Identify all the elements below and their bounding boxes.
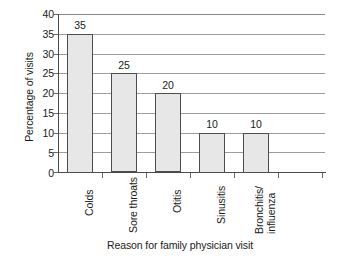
bar-sinusitis[interactable] xyxy=(199,133,225,173)
x-tick-mark xyxy=(102,173,103,178)
y-tick-label: 15 xyxy=(14,108,54,118)
x-category-label-colds: Colds xyxy=(84,190,96,216)
y-tick-label: 35 xyxy=(14,29,54,39)
y-axis-line xyxy=(58,14,59,173)
gridline xyxy=(58,54,325,55)
y-tick-label: 5 xyxy=(14,148,54,158)
x-tick-mark xyxy=(146,173,147,178)
bar-value-label: 25 xyxy=(104,60,144,71)
gridline xyxy=(58,93,325,94)
bar-value-label: 10 xyxy=(192,119,232,130)
y-axis-tick-labels: 40 35 30 25 20 15 10 5 0 xyxy=(10,0,54,258)
x-category-label-bronchitis-influenza: Bronchitis/ influenza xyxy=(254,186,277,234)
bar-sore-throats[interactable] xyxy=(111,73,137,172)
gridline xyxy=(58,133,325,134)
y-tick-label: 0 xyxy=(14,168,54,178)
plot-area xyxy=(58,14,325,172)
bar-value-label: 10 xyxy=(236,119,276,130)
gridline xyxy=(58,73,325,74)
x-tick-mark xyxy=(322,173,323,178)
y-tick-label: 20 xyxy=(14,88,54,98)
bar-chart: Percentage of visits 40 35 30 25 20 15 1… xyxy=(0,0,360,258)
gridline xyxy=(58,152,325,153)
x-tick-mark xyxy=(190,173,191,178)
x-tick-mark xyxy=(234,173,235,178)
gridline xyxy=(58,113,325,114)
x-category-label-sore-throats: Sore throats xyxy=(128,177,140,233)
x-category-label-line1: Bronchitis/ xyxy=(253,186,265,234)
x-axis-title: Reason for family physician visit xyxy=(0,239,360,251)
y-tick-label: 30 xyxy=(14,49,54,59)
bar-bronchitis-influenza[interactable] xyxy=(243,133,269,173)
gridline xyxy=(58,14,325,15)
bar-value-label: 20 xyxy=(148,80,188,91)
bar-otitis[interactable] xyxy=(155,93,181,172)
y-tick-label: 10 xyxy=(14,128,54,138)
gridline xyxy=(58,34,325,35)
x-category-label-otitis: Otitis xyxy=(172,190,184,213)
x-tick-mark xyxy=(278,173,279,178)
x-axis-line xyxy=(58,172,326,173)
bar-colds[interactable] xyxy=(67,34,93,173)
y-tick-label: 25 xyxy=(14,68,54,78)
y-tick-label: 40 xyxy=(14,9,54,19)
x-category-label-sinusitis: Sinusitis xyxy=(216,186,228,224)
x-category-label-line2: influenza xyxy=(266,186,278,234)
bar-value-label: 35 xyxy=(60,20,100,31)
